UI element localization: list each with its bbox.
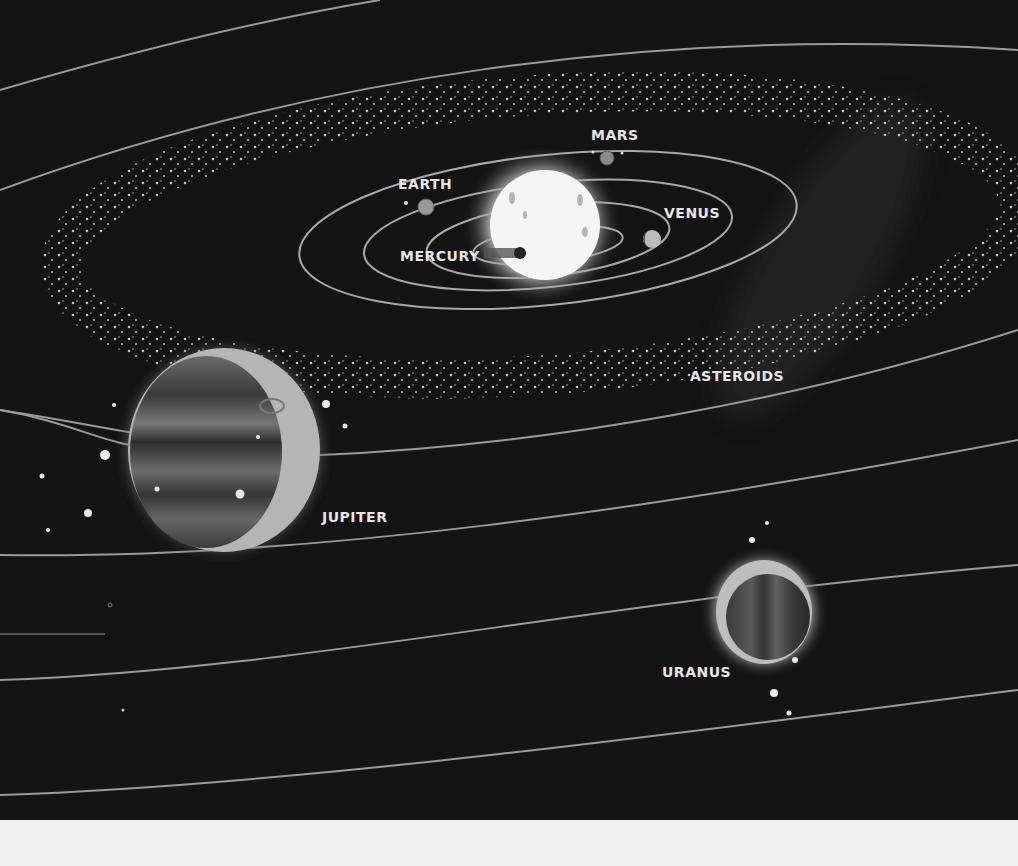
earth xyxy=(418,199,434,215)
mercury xyxy=(514,247,526,259)
label-mercury: MERCURY xyxy=(400,248,480,264)
sun xyxy=(490,170,600,280)
label-venus: VENUS xyxy=(664,205,720,221)
label-mars: MARS xyxy=(591,127,639,143)
mars xyxy=(600,151,614,165)
solar-system-illustration: MARS EARTH VENUS MERCURY ASTEROIDS JUPIT… xyxy=(0,0,1018,820)
solar-system-svg xyxy=(0,0,1018,820)
label-asteroids: ASTEROIDS xyxy=(690,368,784,384)
label-jupiter: JUPITER xyxy=(322,509,387,525)
bottom-margin xyxy=(0,820,1018,866)
uranus xyxy=(704,550,824,674)
label-uranus: URANUS xyxy=(662,664,731,680)
label-earth: EARTH xyxy=(398,176,452,192)
